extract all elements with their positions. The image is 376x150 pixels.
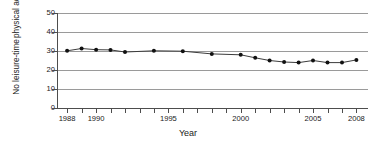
data-point [123,50,127,54]
data-point [109,48,113,52]
data-point [311,59,315,63]
data-point [326,61,330,65]
data-point [268,59,272,63]
series-markers [65,47,358,65]
data-point [297,61,301,65]
data-point [239,53,243,57]
data-point [80,47,84,51]
data-point [282,60,286,64]
data-point [94,48,98,52]
x-axis-title: Year [0,128,376,138]
data-point [181,49,185,53]
chart-figure: No leisure-time physical activity (%) 50… [0,0,376,150]
data-point [210,52,214,56]
data-point [152,49,156,53]
data-point [65,49,69,53]
data-point [354,58,358,62]
data-point [340,61,344,65]
data-point [253,56,257,60]
